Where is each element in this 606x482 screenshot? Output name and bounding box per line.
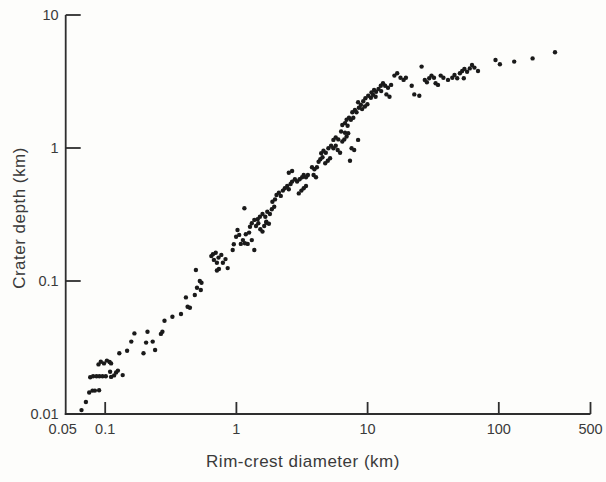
data-point: [419, 64, 423, 68]
data-point: [267, 222, 271, 226]
data-point: [336, 137, 340, 141]
data-point: [553, 50, 557, 54]
data-point: [395, 71, 399, 75]
data-point: [104, 374, 108, 378]
data-point: [232, 242, 236, 246]
data-point: [250, 238, 254, 242]
data-point: [268, 212, 272, 216]
data-point: [389, 83, 393, 87]
y-tick-label: 1: [51, 140, 59, 156]
data-point: [315, 165, 319, 169]
data-point: [462, 76, 466, 80]
data-point: [235, 228, 239, 232]
data-point: [125, 349, 129, 353]
data-point: [199, 281, 203, 285]
data-point: [345, 124, 349, 128]
data-point: [404, 76, 408, 80]
data-point: [194, 268, 198, 272]
x-tick-label: 500: [578, 421, 602, 437]
data-point: [256, 221, 260, 225]
data-point: [199, 288, 203, 292]
data-point: [117, 351, 121, 355]
data-point: [129, 339, 133, 343]
data-point: [242, 206, 246, 210]
data-point: [441, 76, 445, 80]
y-tick-label: 0.01: [30, 406, 58, 422]
data-point: [279, 194, 283, 198]
data-point: [237, 233, 241, 237]
data-point: [247, 230, 251, 234]
data-point: [338, 151, 342, 155]
data-point: [348, 159, 352, 163]
data-point: [498, 62, 502, 66]
x-tick-label: 10: [360, 421, 376, 437]
data-point: [108, 370, 112, 374]
data-point: [334, 144, 338, 148]
data-point: [320, 155, 324, 159]
data-point: [263, 215, 267, 219]
data-point: [193, 293, 197, 297]
data-point: [215, 261, 219, 265]
data-point: [93, 388, 97, 392]
data-point: [116, 368, 120, 372]
data-point: [287, 187, 291, 191]
data-point: [273, 197, 277, 201]
data-point: [512, 59, 516, 63]
x-tick-label: 1: [232, 421, 240, 437]
data-point: [436, 83, 440, 87]
data-point: [195, 286, 199, 290]
data-point: [352, 148, 356, 152]
data-point: [314, 175, 318, 179]
y-tick-label: 10: [43, 7, 59, 23]
data-point: [145, 330, 149, 334]
data-point: [446, 78, 450, 82]
data-point: [121, 373, 125, 377]
data-point: [153, 348, 157, 352]
data-point: [472, 65, 476, 69]
data-point: [223, 257, 227, 261]
data-point: [455, 76, 459, 80]
data-point: [84, 400, 88, 404]
data-point: [356, 138, 360, 142]
data-point: [412, 92, 416, 96]
y-tick-label: 0.1: [39, 273, 59, 289]
data-point: [493, 58, 497, 62]
data-point: [141, 351, 145, 355]
data-point: [324, 151, 328, 155]
scatter-figure: 0.11101005000.051010.10.01 Crater depth …: [0, 0, 606, 482]
x-axis-min-label: 0.05: [49, 421, 77, 437]
data-point: [379, 89, 383, 93]
y-axis-title: Crater depth (km): [10, 147, 30, 289]
x-tick-label: 0.1: [95, 421, 115, 437]
data-point: [184, 295, 188, 299]
data-point: [304, 184, 308, 188]
data-point: [179, 312, 183, 316]
x-tick-label: 100: [487, 421, 511, 437]
data-point: [151, 339, 155, 343]
data-point: [162, 319, 166, 323]
data-point: [387, 95, 391, 99]
data-point: [79, 408, 83, 412]
data-point: [132, 331, 136, 335]
data-point: [170, 315, 174, 319]
data-point: [328, 156, 332, 160]
data-point: [351, 116, 355, 120]
data-point: [109, 361, 113, 365]
scatter-plot-canvas: 0.11101005000.051010.10.01: [0, 0, 606, 482]
data-point: [246, 242, 250, 246]
data-point: [252, 248, 256, 252]
data-point: [219, 253, 223, 257]
data-point: [356, 100, 360, 104]
data-point: [306, 173, 310, 177]
x-axis-title: Rim-crest diameter (km): [0, 452, 606, 472]
data-point: [373, 95, 377, 99]
data-point: [339, 129, 343, 133]
data-point: [272, 205, 276, 209]
data-point: [188, 306, 192, 310]
data-point: [425, 80, 429, 84]
data-point: [226, 266, 230, 270]
data-point: [343, 131, 347, 135]
data-point: [290, 169, 294, 173]
data-point: [215, 268, 219, 272]
data-point: [354, 110, 358, 114]
